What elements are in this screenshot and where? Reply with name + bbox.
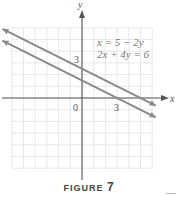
x-axis-label: x (169, 93, 175, 104)
caption-word: FIGURE (63, 183, 103, 193)
y-axis-arrow-icon (79, 10, 85, 18)
x-axis-arrow-icon (161, 95, 169, 101)
corner-mark (166, 193, 176, 194)
legend-line-2: 2x + 4y = 6 (97, 48, 150, 60)
legend-line-1: x = 5 − 2y (96, 36, 144, 48)
caption-number: 7 (107, 180, 115, 194)
figure-caption: FIGURE 7 (0, 180, 178, 194)
y-tick-3: 3 (74, 54, 79, 65)
graph: x y 0 3 3 x = 5 − 2y 2x + 4y = 6 (0, 0, 178, 180)
y-axis-label: y (77, 0, 83, 10)
x-tick-3: 3 (114, 102, 119, 113)
origin-label: 0 (73, 102, 78, 113)
